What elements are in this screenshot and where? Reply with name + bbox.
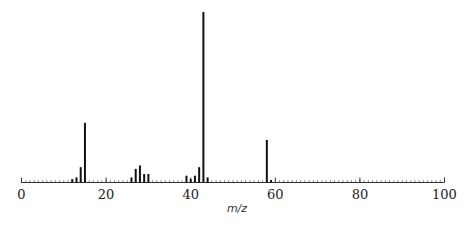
x-tick-label: 20 [98,187,115,202]
x-tick-label: 80 [352,187,369,202]
x-tick-label: 0 [17,187,25,202]
x-tick-label: 100 [432,187,457,202]
mass-spectrum-chart: 020406080100 m/z [0,0,468,232]
x-axis-tick-labels: 020406080100 [17,187,457,202]
spectrum-peaks [72,12,271,183]
x-axis-title: m/z [227,202,247,215]
x-tick-label: 40 [182,187,199,202]
x-tick-label: 60 [267,187,284,202]
